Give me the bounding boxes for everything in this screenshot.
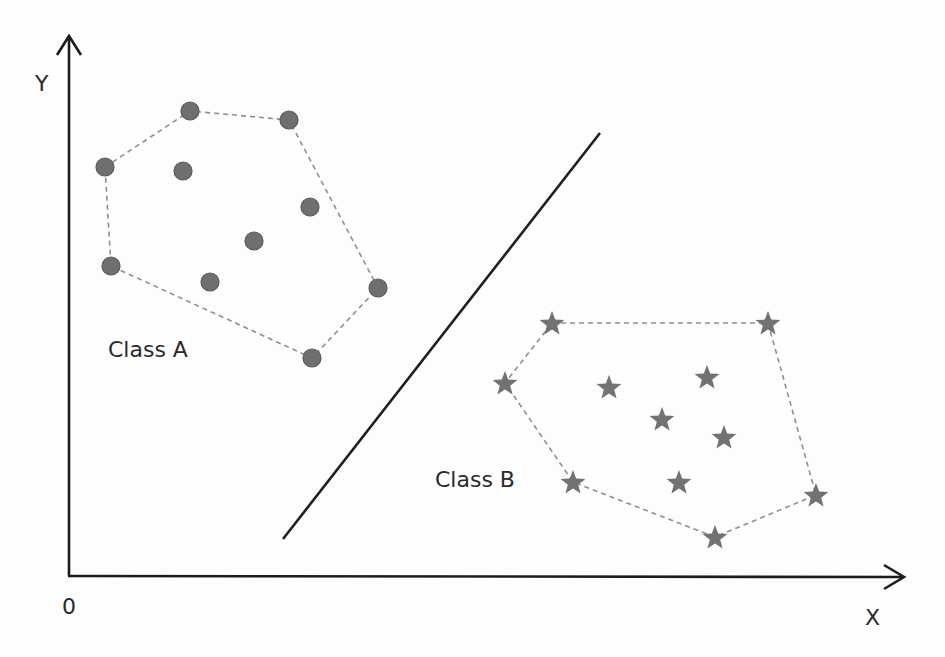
class-b-point-star-icon — [804, 483, 829, 507]
class-b-point-star-icon — [493, 371, 518, 395]
class-a-label: Class A — [108, 337, 188, 362]
class-a-point-circle-icon — [301, 198, 319, 216]
class-b-point-star-icon — [540, 311, 565, 335]
class-a-point-circle-icon — [181, 102, 199, 120]
class-b-point-star-icon — [650, 407, 675, 431]
class-b-points — [493, 311, 829, 549]
class-a-point-circle-icon — [96, 158, 114, 176]
origin-label: 0 — [62, 594, 76, 619]
y-axis-label: Y — [34, 71, 49, 96]
class-b-point-star-icon — [695, 365, 720, 389]
class-a-point-circle-icon — [102, 257, 120, 275]
class-a-point-circle-icon — [201, 273, 219, 291]
classification-diagram: Y X 0 Class A Class B — [0, 0, 945, 657]
class-b-label: Class B — [435, 467, 515, 492]
class-a-point-circle-icon — [174, 162, 192, 180]
axes — [57, 36, 904, 589]
class-a-point-circle-icon — [303, 349, 321, 367]
class-a-hull — [105, 111, 378, 358]
class-b-point-star-icon — [561, 470, 586, 494]
x-axis — [68, 576, 903, 577]
x-axis-label: X — [865, 605, 880, 630]
class-b-hull — [505, 323, 816, 537]
class-a-point-circle-icon — [280, 111, 298, 129]
class-a-point-circle-icon — [369, 279, 387, 297]
class-b-point-star-icon — [756, 311, 781, 335]
class-b-point-star-icon — [703, 525, 728, 549]
class-b-point-star-icon — [597, 375, 622, 399]
class-a-points — [96, 102, 387, 367]
class-a-point-circle-icon — [245, 232, 263, 250]
class-b-point-star-icon — [712, 425, 737, 449]
class-b-point-star-icon — [667, 470, 692, 494]
